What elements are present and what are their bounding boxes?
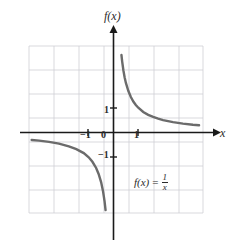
- equation-lhs: f(x): [134, 177, 149, 188]
- y-axis-arrowhead: [110, 25, 118, 33]
- curve-branch-negative: [32, 140, 106, 210]
- equation-equals-sign: =: [151, 177, 159, 188]
- y-axis-label: f(x): [104, 10, 121, 22]
- equation-annotation: f(x) = 1 x: [134, 173, 168, 193]
- origin-tick-label: 0: [101, 130, 106, 140]
- x-tick-label-1: 1: [134, 130, 139, 140]
- plot-canvas: [0, 0, 233, 247]
- x-tick-label-neg1: −1: [80, 130, 91, 140]
- fraction-denominator: x: [162, 182, 168, 192]
- y-tick-label-neg1: −1: [98, 150, 109, 160]
- x-axis-label: x: [220, 127, 225, 139]
- curve-branch-positive: [121, 55, 199, 125]
- y-tick-label-1: 1: [104, 105, 109, 115]
- fraction-numerator: 1: [161, 173, 168, 182]
- equation-fraction: 1 x: [161, 173, 168, 193]
- function-graph-figure: f(x) x −1 0 1 1 −1 f(x) = 1 x: [0, 0, 233, 247]
- grid-lines: [29, 46, 203, 213]
